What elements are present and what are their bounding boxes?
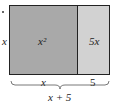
curly-brace-icon [10, 81, 110, 90]
total-width-label: x + 5 [48, 92, 71, 103]
left-area-label: x² [38, 36, 46, 47]
height-label: x [2, 36, 7, 47]
right-area-label: 5x [89, 36, 99, 47]
bullet-dot [2, 11, 4, 13]
region-divider [77, 5, 78, 75]
